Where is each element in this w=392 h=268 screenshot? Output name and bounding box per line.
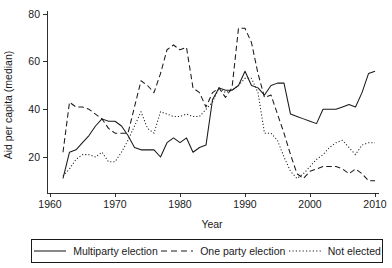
y-axis-title: Aid per capita (median): [2, 51, 14, 160]
x-tick-label: 2000: [298, 198, 322, 210]
y-tick-label: 20: [28, 151, 40, 163]
chart-figure: 20406080 196019701980199020002010 Year A…: [0, 0, 392, 268]
legend-label-not-elected: Not elected: [328, 245, 381, 257]
legend-label-multiparty-election: Multiparty election: [73, 245, 158, 257]
x-tick-label: 1980: [168, 198, 192, 210]
x-axis: 196019701980199020002010: [38, 193, 387, 210]
legend-swatch-solid-icon: [33, 246, 67, 256]
y-tick-label: 60: [28, 55, 40, 67]
line-chart-plot: 20406080 196019701980199020002010 Year A…: [0, 0, 392, 268]
series-line-one-party-election: [63, 28, 375, 181]
y-tick-label: 40: [28, 103, 40, 115]
x-tick-label: 1990: [233, 198, 257, 210]
x-tick-label: 1960: [38, 198, 62, 210]
legend-label-one-party-election: One party election: [200, 245, 285, 257]
x-tick-label: 1970: [103, 198, 127, 210]
series-line-multiparty-election: [63, 71, 375, 178]
y-axis: 20406080: [28, 8, 47, 193]
series-line-not-elected: [63, 78, 375, 178]
x-axis-title: Year: [201, 218, 223, 230]
legend-swatch-dotted-icon: [288, 246, 322, 256]
legend-item-one-party-election: One party election: [160, 245, 285, 257]
legend-swatch-dashed-icon: [160, 246, 194, 256]
x-tick-label: 2010: [363, 198, 387, 210]
legend-item-multiparty-election: Multiparty election: [33, 245, 158, 257]
chart-legend: Multiparty election One party election N…: [31, 239, 383, 263]
y-tick-label: 80: [28, 8, 40, 20]
legend-item-not-elected: Not elected: [288, 245, 381, 257]
series-lines: [63, 28, 375, 181]
